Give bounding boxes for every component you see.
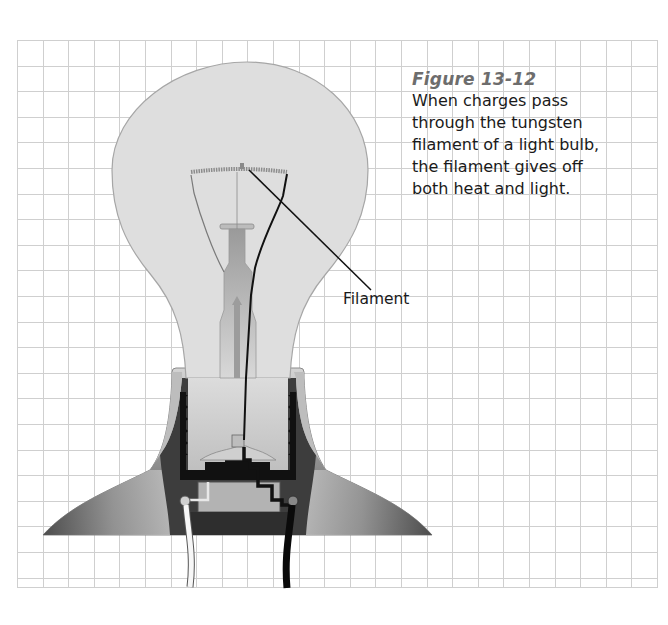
figure-number: Figure 13-12 (412, 68, 662, 90)
caption-text: When charges pass through the tungsten f… (412, 90, 662, 200)
filament-label: Filament (343, 290, 409, 308)
caption-line: both heat and light. (412, 178, 662, 200)
figure: Figure 13-12 When charges pass through t… (0, 0, 668, 625)
caption-line: filament of a light bulb, (412, 134, 662, 156)
caption-line: through the tungsten (412, 112, 662, 134)
caption-line: When charges pass (412, 90, 662, 112)
figure-caption: Figure 13-12 When charges pass through t… (412, 68, 662, 200)
caption-line: the filament gives off (412, 156, 662, 178)
